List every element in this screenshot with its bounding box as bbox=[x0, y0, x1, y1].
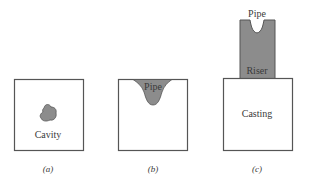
panel-c: Pipe Riser Casting (c) bbox=[224, 8, 293, 174]
cavity-label: Cavity bbox=[35, 129, 62, 140]
pipe-label-c: Pipe bbox=[248, 8, 266, 19]
casting-defects-diagram: Cavity (a) Pipe (b) Pipe Riser Casting (… bbox=[0, 0, 313, 182]
cavity-shape bbox=[40, 105, 56, 122]
riser-label: Riser bbox=[246, 65, 268, 76]
caption-c: (c) bbox=[252, 164, 262, 174]
panel-b: Pipe (b) bbox=[119, 80, 188, 175]
caption-b: (b) bbox=[148, 164, 159, 174]
panel-a: Cavity (a) bbox=[15, 80, 84, 175]
casting-label: Casting bbox=[242, 108, 273, 119]
caption-a: (a) bbox=[43, 164, 54, 174]
pipe-label-b: Pipe bbox=[144, 81, 162, 92]
